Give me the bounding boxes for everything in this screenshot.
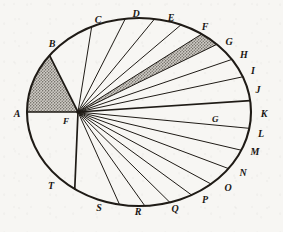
perimeter-label-F: F — [201, 21, 209, 32]
perimeter-label-C: C — [95, 14, 102, 25]
orbit-diagram: ABCDEFGHIJKLMNOPQRST F G — [0, 0, 283, 232]
perimeter-label-O: O — [224, 182, 231, 193]
focus-point — [76, 110, 80, 114]
perimeter-label-L: L — [257, 128, 264, 139]
perimeter-label-B: B — [48, 38, 56, 49]
perimeter-label-Q: Q — [171, 203, 178, 214]
perimeter-label-A: A — [13, 108, 21, 119]
perimeter-label-T: T — [48, 180, 55, 191]
radius-F-N — [78, 112, 228, 169]
perimeter-label-K: K — [260, 108, 269, 119]
figure-page: ABCDEFGHIJKLMNOPQRST F G — [0, 0, 283, 232]
radius-F-G — [78, 34, 202, 112]
radius-F-S — [78, 112, 120, 205]
sector-A-B — [27, 55, 78, 112]
perimeter-label-P: P — [202, 194, 209, 205]
radius-F-R — [78, 112, 145, 206]
radius-F-T — [75, 112, 78, 189]
perimeter-label-S: S — [96, 202, 102, 213]
focus-label: F — [62, 116, 69, 126]
perimeter-label-I: I — [250, 65, 256, 76]
perimeter-label-G: G — [225, 36, 233, 47]
radius-F-H — [78, 44, 217, 112]
perimeter-label-D: D — [131, 8, 139, 19]
radius-F-Q — [78, 112, 170, 202]
perimeter-label-N: N — [238, 167, 247, 178]
perimeter-label-J: J — [255, 84, 262, 95]
perimeter-label-M: M — [250, 146, 261, 157]
interior-point-label: G — [212, 114, 219, 124]
radius-F-P — [78, 112, 192, 195]
perimeter-label-R: R — [134, 206, 142, 217]
perimeter-label-E: E — [167, 12, 175, 23]
sector-G-H — [78, 34, 217, 112]
perimeter-label-H: H — [239, 49, 249, 60]
